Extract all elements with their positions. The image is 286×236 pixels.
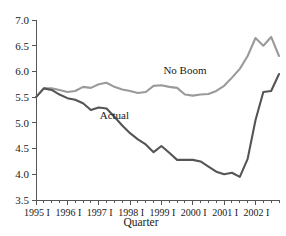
- series-label-actual: Actual: [100, 109, 129, 121]
- series-line-no-boom: [36, 37, 279, 97]
- x-axis-title: Quarter: [123, 216, 158, 228]
- x-tick-label: 2000 I: [181, 207, 207, 218]
- y-tick-label: 5.5: [15, 91, 29, 103]
- y-tick-label: 6.5: [15, 40, 29, 52]
- y-tick-label: 3.5: [15, 194, 29, 206]
- y-tick-label: 4.5: [15, 142, 29, 154]
- x-tick-label: 1996 I: [55, 207, 81, 218]
- y-tick-label: 6.0: [15, 65, 29, 77]
- line-chart: 3.54.04.55.05.56.06.57.0 1995 I1996 I199…: [0, 0, 286, 236]
- y-tick-label: 4.0: [15, 168, 29, 180]
- chart-figure: 3.54.04.55.05.56.06.57.0 1995 I1996 I199…: [0, 0, 286, 236]
- series-line-actual: [36, 74, 279, 177]
- series-lines: [36, 37, 279, 177]
- x-tick-label: 1997 I: [87, 207, 113, 218]
- series-label-no-boom: No Boom: [163, 64, 207, 76]
- x-tick-label: 1995 I: [24, 207, 50, 218]
- x-tick-label: 2002 I: [244, 207, 270, 218]
- x-tick-label: 2001 I: [212, 207, 238, 218]
- y-axis: 3.54.04.55.05.56.06.57.0: [15, 14, 36, 206]
- y-tick-label: 5.0: [15, 117, 29, 129]
- series-annotations: No BoomActual: [100, 64, 207, 121]
- y-tick-label: 7.0: [15, 14, 29, 26]
